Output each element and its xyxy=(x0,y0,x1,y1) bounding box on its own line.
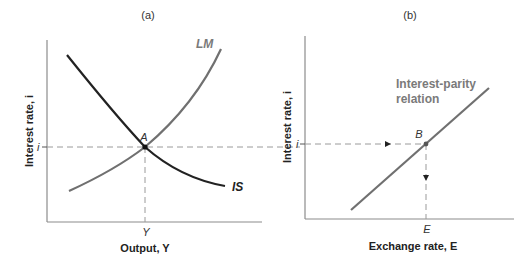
panel-a-y-tick-label: i xyxy=(37,141,40,153)
point-b-label: B xyxy=(415,128,422,140)
is-lm-interest-parity-diagram: (a) Interest rate, i Output, Y i Y A LM … xyxy=(0,0,523,270)
point-a xyxy=(142,144,147,149)
panel-b-x-axis-label: Exchange rate, E xyxy=(369,240,458,252)
panel-a-y-axis-label: Interest rate, i xyxy=(23,95,35,167)
right-arrow-icon xyxy=(385,141,391,147)
is-curve xyxy=(67,55,225,186)
parity-label-line1: Interest-parity xyxy=(396,77,476,91)
panel-a-label: (a) xyxy=(141,9,154,21)
panel-a-x-axis-label: Output, Y xyxy=(120,242,170,254)
down-arrow-icon xyxy=(423,175,429,181)
panel-b-x-tick-label: E xyxy=(423,223,431,235)
point-b xyxy=(424,142,429,147)
parity-label-line2: relation xyxy=(396,92,439,106)
point-a-label: A xyxy=(139,131,147,143)
panel-b-y-tick-label: i xyxy=(296,138,299,150)
panel-b: (b) Interest rate, i Exchange rate, E i … xyxy=(281,9,514,252)
lm-curve-label: LM xyxy=(196,37,214,51)
panel-a-x-tick-label: Y xyxy=(142,226,150,238)
interest-parity-line xyxy=(351,88,489,210)
is-curve-label: IS xyxy=(232,180,243,194)
panel-b-y-axis-label: Interest rate, i xyxy=(281,91,293,163)
panel-a: (a) Interest rate, i Output, Y i Y A LM … xyxy=(23,9,300,254)
panel-b-label: (b) xyxy=(403,9,416,21)
